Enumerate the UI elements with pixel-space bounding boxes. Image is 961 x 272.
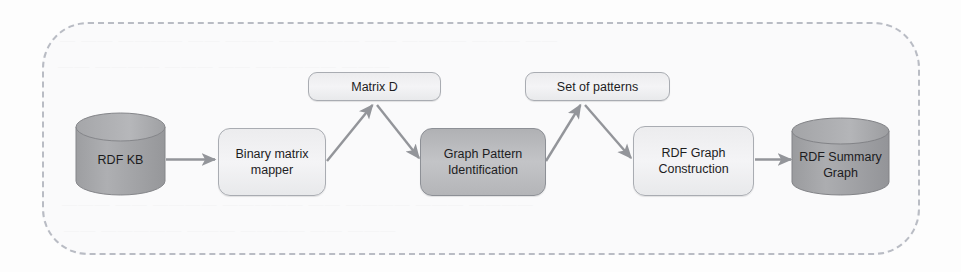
node-set-of-patterns-label: Set of patterns: [557, 79, 638, 95]
node-graph-pattern-identification[interactable]: Graph Pattern Identification: [420, 128, 546, 196]
node-rdf-kb-label: RDF KB: [75, 152, 166, 168]
node-binary-matrix-mapper[interactable]: Binary matrix mapper: [218, 128, 326, 196]
node-rdf-summary-graph[interactable]: RDF Summary Graph: [791, 117, 890, 196]
node-set-of-patterns[interactable]: Set of patterns: [525, 72, 670, 101]
node-binary-matrix-mapper-label-line2: mapper: [236, 162, 309, 178]
node-graph-pattern-identification-label-line2: Identification: [444, 162, 523, 178]
node-graph-pattern-identification-label-line1: Graph Pattern: [444, 146, 523, 162]
node-rdf-kb[interactable]: RDF KB: [75, 112, 166, 196]
node-rdf-graph-construction-label-line2: Construction: [658, 161, 728, 177]
node-rdf-graph-construction-label-line1: RDF Graph: [658, 145, 728, 161]
node-matrix-d[interactable]: Matrix D: [308, 72, 441, 101]
node-rdf-summary-graph-label-line2: Graph: [791, 165, 890, 181]
node-rdf-graph-construction[interactable]: RDF Graph Construction: [633, 126, 754, 196]
node-rdf-summary-graph-label-line1: RDF Summary: [791, 149, 890, 165]
node-binary-matrix-mapper-label-line1: Binary matrix: [236, 146, 309, 162]
node-matrix-d-label: Matrix D: [351, 79, 398, 95]
figure-canvas: — —— ———— —— ——— ————— —— ———— ——— —— ——…: [0, 0, 961, 272]
